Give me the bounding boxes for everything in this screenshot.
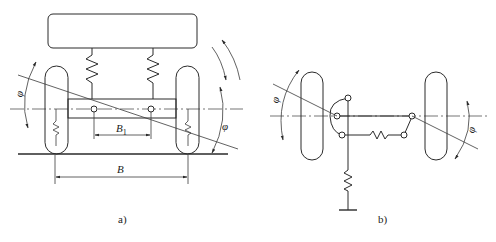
pivot-top	[345, 95, 351, 101]
right-angle-label-b: φ	[464, 125, 477, 134]
pivot-lower-right	[401, 132, 407, 138]
right-wheel	[176, 66, 199, 154]
subfigure-a: B1 B φ φ a)	[10, 14, 243, 226]
subfigure-b: φ φ b)	[268, 70, 488, 226]
vehicle-body	[48, 14, 197, 48]
ground-spring	[344, 170, 352, 191]
left-angle-arc-a	[24, 62, 36, 128]
right-pivot	[148, 106, 154, 112]
lower-link-spring	[370, 131, 388, 139]
pivot-lower-left	[339, 132, 345, 138]
tilt-line-b-left	[273, 84, 337, 116]
left-tire-spring	[53, 109, 59, 146]
right-angle-label-a: φ	[222, 120, 228, 132]
left-wheel	[45, 66, 68, 154]
b-label: B	[117, 163, 124, 175]
suspension-diagram: B1 B φ φ a)	[0, 0, 496, 242]
right-tire-spring	[185, 109, 191, 146]
left-body-spring	[86, 48, 98, 99]
left-angle-arc-b	[281, 70, 299, 140]
right-rotation-arc-inner	[212, 47, 226, 80]
left-pivot	[91, 106, 97, 112]
left-angle-label-a: φ	[12, 89, 25, 98]
right-body-spring	[147, 48, 159, 99]
axle-beam	[68, 99, 176, 118]
caption-b: b)	[378, 213, 388, 226]
tilt-line-a	[18, 75, 238, 149]
caption-a: a)	[118, 213, 127, 226]
left-angle-label-b: φ	[268, 95, 281, 104]
